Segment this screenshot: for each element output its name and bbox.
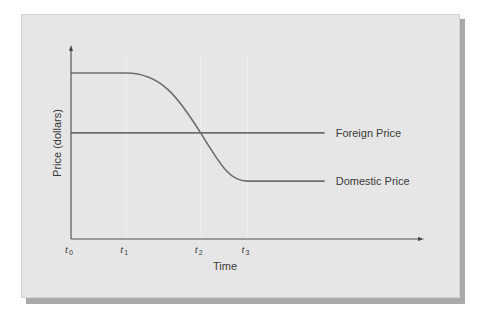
series-line-domestic-price (71, 73, 325, 181)
x-tick-label: t2 (195, 243, 203, 256)
y-axis-arrow (69, 45, 73, 51)
series-label: Domestic Price (336, 175, 410, 187)
x-axis-label: Time (213, 260, 237, 272)
x-tick-label: t0 (65, 243, 73, 256)
series-label: Foreign Price (336, 127, 401, 139)
x-tick-label: t1 (120, 243, 128, 256)
x-axis-arrow (418, 237, 424, 241)
y-axis-label: Price (dollars) (51, 109, 63, 177)
x-tick-label: t3 (242, 243, 250, 256)
chart: t0t1t2t3 Time Price (dollars) Foreign Pr… (0, 0, 488, 320)
